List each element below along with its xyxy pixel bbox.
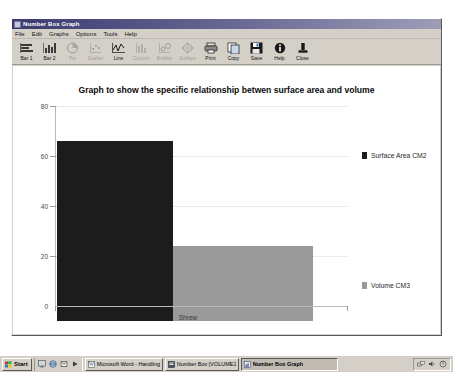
y-tick-label-60: 60 bbox=[41, 153, 48, 160]
toolbar-button-close[interactable]: Close bbox=[291, 40, 314, 64]
legend-item-volume[interactable]: Volume CM3 bbox=[362, 282, 410, 289]
x-axis bbox=[55, 306, 348, 307]
toolbar-button-scatter[interactable]: Scatter bbox=[84, 40, 107, 64]
legend-swatch-surface-area bbox=[362, 152, 367, 159]
toolbar-label-bubble: Bubble bbox=[157, 55, 173, 61]
bubble-icon bbox=[157, 41, 172, 54]
toolbar-button-bar1[interactable]: Bar 1 bbox=[15, 40, 38, 64]
svg-text:W: W bbox=[89, 361, 94, 367]
taskbar-item-word-label: Microsoft Word - Handling bbox=[97, 361, 160, 367]
taskbar-item-numberbox-label: Number Box [VOLUME1 N bbox=[177, 361, 236, 367]
numbox-icon bbox=[168, 361, 175, 368]
start-button-label: Start bbox=[14, 361, 28, 367]
windows-flag-icon bbox=[5, 361, 12, 368]
toolbar-label-bar1: Bar 1 bbox=[21, 55, 33, 61]
gridline-80 bbox=[56, 106, 348, 107]
graph-icon bbox=[244, 361, 251, 368]
close-icon bbox=[295, 41, 310, 54]
surface-icon bbox=[180, 41, 195, 54]
y-tick-label-80: 80 bbox=[41, 103, 48, 110]
x-axis-end-tick bbox=[347, 306, 348, 311]
pie-icon bbox=[65, 41, 80, 54]
bar-volume[interactable] bbox=[173, 246, 313, 321]
toolbar-button-bar2[interactable]: Bar 2 bbox=[38, 40, 61, 64]
bar2-icon bbox=[42, 41, 57, 54]
toolbar-button-help[interactable]: Help bbox=[268, 40, 291, 64]
y-tick-80 bbox=[50, 106, 56, 107]
y-tick-label-40: 40 bbox=[41, 203, 48, 210]
legend-item-surface-area[interactable]: Surface Area CM2 bbox=[362, 152, 427, 159]
toolbar-label-close: Close bbox=[296, 55, 309, 61]
show-desktop-icon[interactable] bbox=[38, 360, 46, 368]
menu-item-options[interactable]: Options bbox=[76, 29, 97, 39]
line-icon bbox=[111, 41, 126, 54]
legend-swatch-volume bbox=[362, 282, 367, 289]
internet-explorer-icon[interactable] bbox=[49, 360, 57, 368]
system-tray bbox=[413, 358, 451, 371]
y-tick-20 bbox=[50, 256, 56, 257]
toolbar-label-copy: Copy bbox=[228, 55, 240, 61]
media-player-icon[interactable] bbox=[71, 360, 79, 368]
taskbar-item-word[interactable]: W Microsoft Word - Handling bbox=[85, 358, 163, 371]
outlook-express-icon[interactable] bbox=[60, 360, 68, 368]
toolbar-button-bubble[interactable]: Bubble bbox=[153, 40, 176, 64]
toolbar-label-help: Help bbox=[274, 55, 284, 61]
window-title: Number Box Graph bbox=[23, 19, 80, 29]
toolbar-label-pie: Pie bbox=[69, 55, 76, 61]
legend-label-volume: Volume CM3 bbox=[371, 282, 410, 289]
legend-label-surface-area: Surface Area CM2 bbox=[371, 152, 427, 159]
help-icon bbox=[272, 41, 287, 54]
menu-item-tools[interactable]: Tools bbox=[103, 29, 117, 39]
toolbar-label-bar2: Bar 2 bbox=[44, 55, 56, 61]
start-button[interactable]: Start bbox=[2, 358, 32, 371]
taskbar-item-graph-label: Number Box Graph bbox=[253, 361, 303, 367]
toolbar-label-surface: Surface bbox=[179, 55, 196, 61]
x-axis-start-tick bbox=[55, 306, 56, 311]
copy-icon bbox=[226, 41, 241, 54]
toolbar-button-surface[interactable]: Surface bbox=[176, 40, 199, 64]
scatter-icon bbox=[88, 41, 103, 54]
menu-item-help[interactable]: Help bbox=[124, 29, 136, 39]
toolbar-button-line[interactable]: Line bbox=[107, 40, 130, 64]
bar1-icon bbox=[19, 41, 34, 54]
y-tick-40 bbox=[50, 206, 56, 207]
taskbar: Start W Microsoft Word bbox=[0, 355, 453, 372]
y-tick-label-0: 0 bbox=[44, 303, 48, 310]
column-icon bbox=[134, 41, 149, 54]
quick-launch-bar bbox=[34, 358, 83, 371]
toolbar-label-line: Line bbox=[114, 55, 123, 61]
toolbar-button-column[interactable]: Column bbox=[130, 40, 153, 64]
screen: Number Box Graph File Edit Graphs Option… bbox=[0, 0, 453, 372]
application-window: Number Box Graph File Edit Graphs Option… bbox=[11, 18, 442, 336]
toolbar-button-save[interactable]: Save bbox=[245, 40, 268, 64]
toolbar-button-pie[interactable]: Pie bbox=[61, 40, 84, 64]
chart-title: Graph to show the specific relationship … bbox=[13, 85, 440, 95]
x-category-label-shrew: Shrew bbox=[143, 314, 233, 321]
y-tick-label-20: 20 bbox=[41, 253, 48, 260]
toolbar: Bar 1 Bar 2 bbox=[12, 39, 441, 65]
plot-area: 80 60 40 20 0 bbox=[31, 106, 348, 321]
app-window-icon bbox=[14, 21, 21, 28]
print-icon bbox=[203, 41, 218, 54]
y-tick-60 bbox=[50, 156, 56, 157]
toolbar-button-copy[interactable]: Copy bbox=[222, 40, 245, 64]
word-icon: W bbox=[88, 361, 95, 368]
toolbar-label-print: Print bbox=[205, 55, 215, 61]
toolbar-button-print[interactable]: Print bbox=[199, 40, 222, 64]
menu-bar: File Edit Graphs Options Tools Help bbox=[12, 29, 441, 39]
toolbar-label-save: Save bbox=[251, 55, 262, 61]
taskbar-item-numberbox[interactable]: Number Box [VOLUME1 N bbox=[165, 358, 239, 371]
chart-client-area: Graph to show the specific relationship … bbox=[13, 66, 440, 334]
toolbar-label-scatter: Scatter bbox=[88, 55, 104, 61]
volume-icon[interactable] bbox=[428, 360, 436, 368]
power-icon[interactable] bbox=[439, 360, 447, 368]
save-icon bbox=[249, 41, 264, 54]
network-icon[interactable] bbox=[417, 360, 425, 368]
menu-item-file[interactable]: File bbox=[15, 29, 25, 39]
menu-item-graphs[interactable]: Graphs bbox=[49, 29, 69, 39]
bar-surface-area[interactable] bbox=[57, 141, 173, 321]
taskbar-item-graph[interactable]: Number Box Graph bbox=[241, 358, 338, 371]
window-titlebar[interactable]: Number Box Graph bbox=[12, 19, 441, 29]
toolbar-label-column: Column bbox=[133, 55, 150, 61]
menu-item-edit[interactable]: Edit bbox=[32, 29, 42, 39]
